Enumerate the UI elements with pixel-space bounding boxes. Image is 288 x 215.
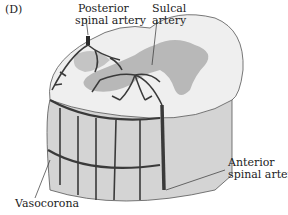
posterior-label-line2: spinal artery xyxy=(75,15,146,27)
panel-label: (D) xyxy=(5,4,22,16)
vasocorona-label: Vasocorona xyxy=(15,198,79,210)
posterior-spinal-artery-label: Posterior spinal artery xyxy=(75,3,146,27)
sulcal-label-line2: artery xyxy=(152,15,186,27)
anterior-spinal-artery-label: Anterior spinal artery xyxy=(228,157,288,181)
leader-vasocorona xyxy=(35,160,50,198)
anterior-spinal-artery-vessel xyxy=(162,105,164,190)
spinal-cord-illustration xyxy=(0,0,288,215)
anterior-label-line2: spinal artery xyxy=(228,169,288,181)
sulcal-artery-label: Sulcal artery xyxy=(152,3,186,27)
